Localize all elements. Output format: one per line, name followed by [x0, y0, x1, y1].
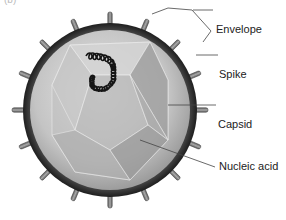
label-spike: Spike [219, 68, 247, 80]
label-capsid: Capsid [218, 118, 252, 130]
label-nucleic-acid: Nucleic acid [219, 160, 278, 172]
envelope-bracket [152, 8, 211, 31]
label-envelope: Envelope [216, 23, 262, 35]
panel-label: (b) [4, 0, 16, 5]
virus-structure-diagram: (b) [0, 0, 286, 220]
